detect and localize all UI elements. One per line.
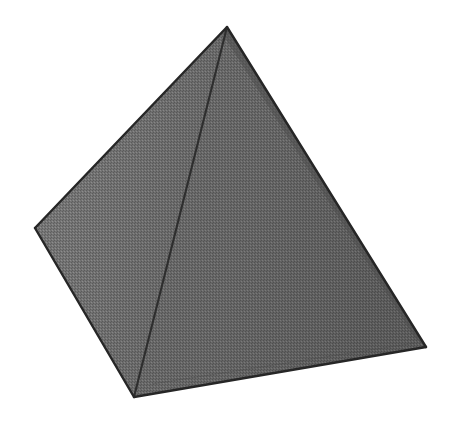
image-canvas: Square Pyramid bbox=[0, 0, 457, 421]
pyramid-illustration: Square Pyramid bbox=[0, 0, 457, 421]
